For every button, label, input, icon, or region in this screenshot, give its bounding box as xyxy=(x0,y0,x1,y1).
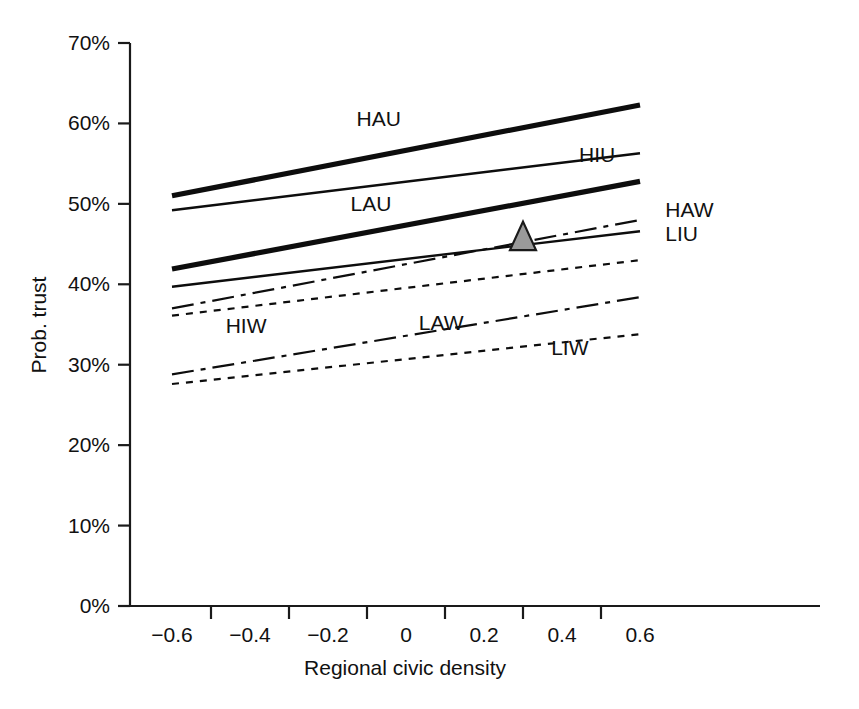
series-label-law: LAW xyxy=(419,311,464,334)
y-tick-label: 0% xyxy=(80,594,110,617)
x-axis-title: Regional civic density xyxy=(304,656,506,679)
series-label-hiw: HIW xyxy=(226,314,267,337)
series-label-lau: LAU xyxy=(350,192,391,215)
y-axis-ticks xyxy=(118,43,130,606)
series-label-hiu: HIU xyxy=(579,143,615,166)
series-line-haw xyxy=(172,220,640,308)
series-line-lau xyxy=(172,181,640,269)
series-label-haw: HAW xyxy=(665,198,713,221)
line-chart-svg: 0%10%20%30%40%50%60%70% −0.6−0.4−0.200.2… xyxy=(0,0,859,709)
series-label-hau: HAU xyxy=(357,107,401,130)
chart-figure: 0%10%20%30%40%50%60%70% −0.6−0.4−0.200.2… xyxy=(0,0,859,709)
x-axis-ticks xyxy=(211,606,601,619)
x-tick-label: 0 xyxy=(400,623,412,646)
x-tick-label: 0.4 xyxy=(547,623,577,646)
series-label-liw: LIW xyxy=(551,336,589,359)
y-tick-label: 20% xyxy=(68,433,110,456)
x-tick-label: −0.2 xyxy=(307,623,348,646)
x-tick-label: 0.6 xyxy=(625,623,654,646)
chart-axes xyxy=(118,43,820,619)
y-tick-label: 60% xyxy=(68,111,110,134)
marker-triangle xyxy=(510,222,536,250)
x-axis-tick-labels: −0.6−0.4−0.200.20.40.6 xyxy=(151,623,654,646)
chart-markers xyxy=(510,222,536,250)
y-tick-label: 40% xyxy=(68,272,110,295)
y-axis-tick-labels: 0%10%20%30%40%50%60%70% xyxy=(68,31,110,617)
y-axis-title: Prob. trust xyxy=(27,276,50,373)
series-line-liu xyxy=(172,231,640,286)
y-tick-label: 30% xyxy=(68,353,110,376)
y-tick-label: 70% xyxy=(68,31,110,54)
x-tick-label: −0.6 xyxy=(151,623,192,646)
x-tick-label: 0.2 xyxy=(469,623,498,646)
series-line-hiw xyxy=(172,260,640,315)
y-tick-label: 50% xyxy=(68,192,110,215)
series-label-liu: LIU xyxy=(665,222,698,245)
y-tick-label: 10% xyxy=(68,514,110,537)
chart-series-labels: HAUHIULAUHAWLIUHIWLAWLIW xyxy=(226,107,714,359)
x-tick-label: −0.4 xyxy=(229,623,271,646)
